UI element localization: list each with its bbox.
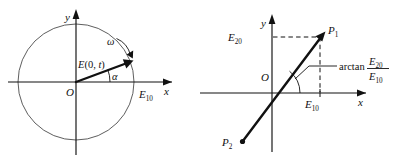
p2-p1-line	[243, 37, 322, 142]
left-panel-group: O x y E(0, t) α ω E10	[8, 9, 172, 155]
right-y-axis-label: y	[260, 17, 266, 29]
p2-label: P2	[221, 136, 233, 151]
right-y-axis-arrowhead	[269, 14, 276, 24]
phasor-label-arg-close: )	[101, 59, 105, 71]
arctan-denominator: E10	[368, 71, 383, 85]
p2-point-marker	[240, 139, 245, 144]
left-origin-label: O	[66, 86, 74, 98]
e20-axis-label: E20	[227, 31, 242, 46]
p1-sub: 1	[335, 31, 339, 39]
e10-endpoint-label: E10	[138, 88, 153, 103]
p1-label: P1	[327, 24, 339, 39]
e10-axis-label: E10	[304, 98, 319, 113]
e10-axis-sub: 10	[312, 105, 320, 113]
right-panel-group: O x y E20 E10 P1 P2 arctan E20 E1	[200, 14, 389, 152]
omega-label: ω	[107, 36, 114, 47]
p2-sub: 2	[229, 143, 233, 151]
left-y-axis-label: y	[64, 11, 70, 23]
right-x-axis-label: x	[357, 96, 363, 108]
right-origin-label: O	[261, 71, 269, 83]
figure-root: O x y E(0, t) α ω E10	[0, 0, 393, 163]
phasor-label-arg-open: (0,	[84, 59, 98, 71]
omega-rotation-arc	[117, 39, 131, 56]
alpha-angle-arc	[108, 70, 110, 82]
arctan-numerator: E20	[368, 56, 383, 70]
e10-endpoint-sub: 10	[146, 95, 154, 103]
arctan-function-label: arctan	[339, 61, 365, 72]
e20-axis-sub: 20	[235, 38, 243, 46]
left-x-axis-label: x	[163, 85, 169, 97]
arctan-leader-line	[295, 66, 337, 79]
left-y-axis-arrowhead	[73, 9, 80, 19]
alpha-angle-label: α	[112, 71, 118, 82]
arctan-denominator-sub: 10	[375, 77, 383, 85]
diagram-canvas: O x y E(0, t) α ω E10	[0, 0, 393, 163]
phasor-label: E(0, t)	[77, 59, 105, 71]
arctan-angle-arc	[290, 71, 301, 93]
